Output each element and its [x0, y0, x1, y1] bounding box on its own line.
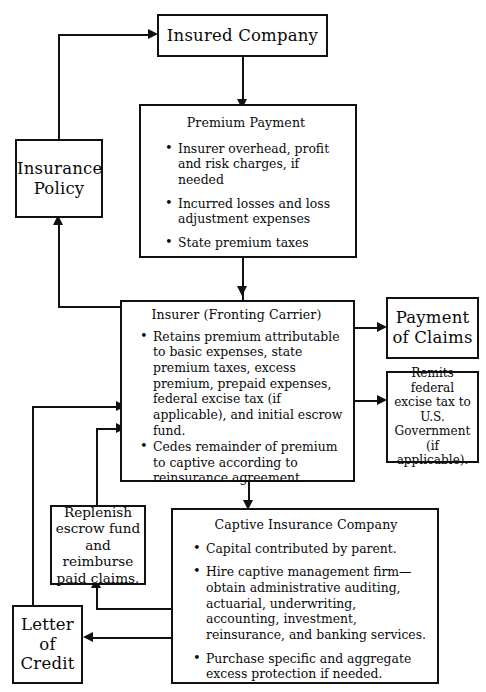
node-insurer-bullets: Retains premium attributable to basic ex… — [130, 329, 343, 486]
list-item: Incurred losses and loss adjustment expe… — [163, 196, 339, 227]
node-premium-payment-heading: Premium Payment — [153, 116, 339, 131]
list-item: Capital contributed by parent. — [191, 541, 429, 557]
list-item: Purchase specific and aggregate excess p… — [191, 651, 429, 682]
node-payment-of-claims-line2: of Claims — [388, 328, 477, 348]
node-letter-of-credit[interactable]: Letter of Credit — [12, 605, 83, 684]
node-remits-excise-tax-text: Remits federal excise tax to U.S. Govern… — [391, 366, 474, 468]
node-insurer-heading: Insurer (Fronting Carrier) — [130, 308, 343, 323]
edge-insurer-to-policy-horizontal — [58, 306, 120, 308]
node-insurance-policy-line2: Policy — [17, 179, 101, 199]
flowchart-canvas: Insured Company Insurance Policy Premium… — [0, 0, 486, 692]
node-captive-heading: Captive Insurance Company — [183, 518, 429, 533]
node-payment-of-claims-line1: Payment — [388, 308, 477, 328]
list-item: Insurer overhead, profit and risk charge… — [163, 141, 339, 188]
node-remits-excise-tax[interactable]: Remits federal excise tax to U.S. Govern… — [386, 371, 479, 463]
node-payment-of-claims[interactable]: Payment of Claims — [386, 297, 479, 359]
node-insurance-policy-line1: Insurance — [17, 159, 101, 179]
node-insurer[interactable]: Insurer (Fronting Carrier) Retains premi… — [120, 300, 355, 482]
node-letter-of-credit-line3: Credit — [14, 654, 81, 674]
node-replenish-escrow-text: Replenish escrow fund and reimburse paid… — [54, 504, 142, 587]
list-item: Retains premium attributable to basic ex… — [138, 329, 343, 438]
list-item: Hire captive management firm—obtain admi… — [191, 564, 429, 642]
node-premium-payment-bullets: Insurer overhead, profit and risk charge… — [153, 141, 339, 251]
edge-captive-to-replenish-horizontal — [96, 608, 173, 610]
node-letter-of-credit-line2: of — [14, 635, 81, 655]
list-item: Cedes remainder of premium to captive ac… — [138, 439, 343, 486]
edge-loc-to-insurer-vertical — [32, 406, 34, 606]
edge-captive-to-replenish-vertical — [96, 586, 98, 610]
node-captive-insurance-company[interactable]: Captive Insurance Company Capital contri… — [171, 508, 439, 684]
edge-insurer-to-policy-vertical — [58, 222, 60, 308]
edge-loc-to-insurer-horizontal — [32, 406, 120, 408]
edge-captive-to-loc-horizontal — [93, 637, 173, 639]
list-item: State premium taxes — [163, 235, 339, 251]
node-premium-payment[interactable]: Premium Payment Insurer overhead, profit… — [139, 104, 357, 258]
node-letter-of-credit-line1: Letter — [14, 615, 81, 635]
edge-policy-to-insured-horizontal — [58, 34, 150, 36]
node-captive-bullets: Capital contributed by parent. Hire capt… — [183, 541, 429, 682]
edge-premium-to-insurer-arrowhead — [237, 286, 247, 296]
node-replenish-escrow[interactable]: Replenish escrow fund and reimburse paid… — [50, 505, 146, 585]
node-insurance-policy[interactable]: Insurance Policy — [15, 139, 103, 218]
edge-captive-to-loc-arrowhead — [83, 632, 93, 642]
edge-replenish-to-insurer-vertical — [96, 428, 98, 508]
node-insured-company[interactable]: Insured Company — [157, 14, 328, 57]
node-insured-company-label: Insured Company — [159, 26, 326, 46]
edge-insured-to-premium-vertical — [242, 56, 244, 105]
